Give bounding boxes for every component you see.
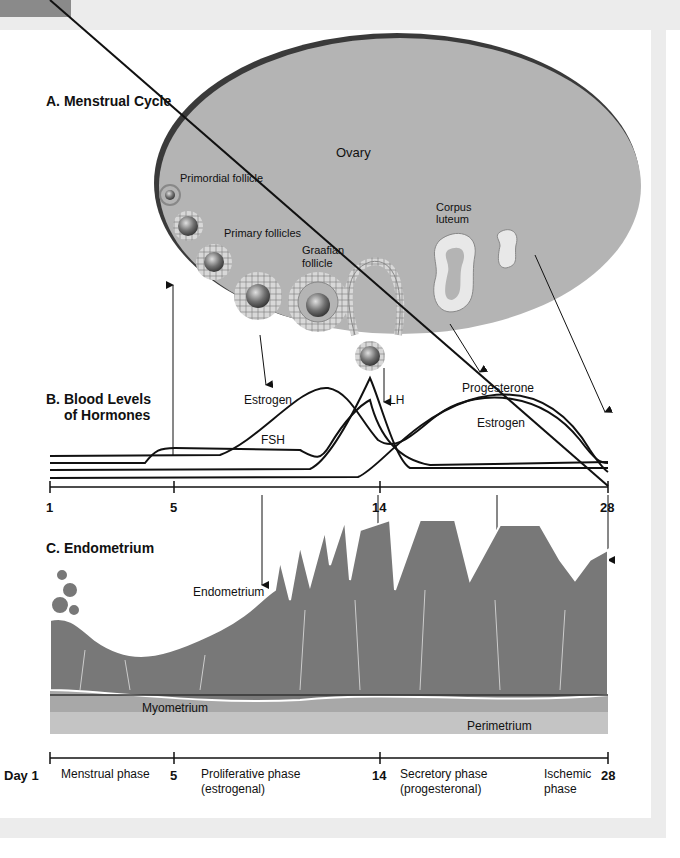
- graafian-follicle-label-1: Graafian: [302, 244, 344, 256]
- day-axis-bottom: [50, 752, 608, 764]
- graafian-follicle-label-2: follicle: [302, 257, 333, 269]
- diagram-canvas: [0, 0, 680, 858]
- ischemic-phase-label-2: phase: [544, 782, 577, 796]
- ovary-illustration: [154, 33, 641, 371]
- menstrual-phase-label: Menstrual phase: [61, 767, 150, 781]
- axis-tick-28: 28: [600, 500, 614, 515]
- section-c-title: C. Endometrium: [46, 540, 154, 556]
- progesterone-label: Progesterone: [462, 381, 534, 395]
- axis-tick-5: 5: [170, 500, 177, 515]
- myometrium-label: Myometrium: [142, 701, 208, 715]
- axis-tick-1: 1: [46, 500, 53, 515]
- corpus-luteum-label-2: luteum: [436, 213, 469, 225]
- ovary-label: Ovary: [336, 145, 371, 160]
- perimetrium-label: Perimetrium: [467, 719, 532, 733]
- section-b-title-line2: of Hormones: [64, 407, 150, 423]
- secretory-phase-label-1: Secretory phase: [400, 767, 487, 781]
- primordial-follicle-label: Primordial follicle: [180, 172, 263, 184]
- corpus-luteum-label-1: Corpus: [436, 201, 471, 213]
- bottom-tick-14: 14: [372, 768, 386, 783]
- fsh-label: FSH: [261, 433, 285, 447]
- section-b-title-line1: B. Blood Levels: [46, 391, 151, 407]
- proliferative-phase-label-1: Proliferative phase: [201, 767, 300, 781]
- bottom-tick-5: 5: [170, 768, 177, 783]
- proliferative-phase-label-2: (estrogenal): [201, 782, 265, 796]
- endometrium-label: Endometrium: [193, 585, 264, 599]
- bottom-tick-28: 28: [601, 768, 615, 783]
- lh-label: LH: [389, 393, 404, 407]
- secretory-phase-label-2: (progesteronal): [400, 782, 481, 796]
- axis-tick-14: 14: [372, 500, 386, 515]
- section-a-title: A. Menstrual Cycle: [46, 93, 171, 109]
- estrogen-label-1: Estrogen: [244, 393, 292, 407]
- ischemic-phase-label-1: Ischemic: [544, 767, 591, 781]
- estrogen-label-2: Estrogen: [477, 416, 525, 430]
- primary-follicles-label: Primary follicles: [224, 227, 301, 239]
- day1-label: Day 1: [4, 768, 39, 783]
- day-axis-top: [50, 481, 608, 493]
